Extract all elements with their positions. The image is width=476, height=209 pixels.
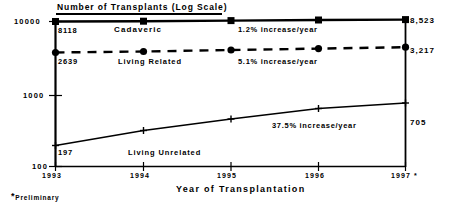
series-marker-living-related	[227, 46, 234, 53]
footnote: *Preliminary	[11, 191, 60, 201]
series-label-living-related: Living Related	[118, 57, 182, 66]
chart-title: Number of Transplants (Log Scale)	[57, 2, 227, 12]
series-marker-cadaveric	[228, 17, 235, 24]
series-marker-cadaveric	[402, 16, 409, 23]
cadaveric-end-value: 8,523	[410, 16, 435, 25]
series-marker-cadaveric	[315, 17, 322, 24]
series-marker-living-related	[52, 49, 59, 56]
living-unrelated-end-value: 705	[410, 118, 426, 127]
living-unrelated-start-value: 197	[58, 148, 73, 157]
y-axis-tick-label-1000: 1000	[23, 91, 45, 100]
annotation-living-related-growth: 5.1% increase/year	[238, 57, 318, 66]
x-axis-tick-label-1993: 1993	[42, 172, 62, 179]
living-related-end-value: 3,217	[410, 46, 435, 55]
living-related-start-value: 2639	[58, 57, 78, 66]
y-axis-tick-label-100: 100	[32, 162, 48, 171]
x-axis-tick-label-1994: 1994	[130, 172, 150, 179]
series-marker-cadaveric	[140, 18, 147, 25]
annotation-living-unrelated-growth: 37.5% increase/year	[272, 121, 357, 130]
x-axis-title: Year of Transplantation	[176, 184, 305, 194]
x-axis-tick-label-1996: 1996	[305, 172, 325, 179]
series-label-living-unrelated: Living Unrelated	[128, 148, 201, 157]
y-axis-tick-label-10000: 10000	[14, 17, 41, 26]
x-axis-tick-label-1997: 1997 *	[391, 172, 418, 179]
transplant-log-scale-chart: Number of Transplants (Log Scale) 10000 …	[0, 0, 476, 209]
series-marker-living-related	[140, 48, 147, 55]
x-axis-tick-label-1995: 1995	[217, 172, 237, 179]
series-marker-living-related	[315, 45, 322, 52]
footnote-text: Preliminary	[15, 194, 59, 201]
annotation-cadaveric-growth: 1.2% increase/year	[238, 25, 318, 34]
chart-title-underline	[56, 13, 222, 15]
cadaveric-start-value: 8118	[58, 26, 77, 35]
series-marker-living-related	[402, 44, 409, 51]
series-label-cadaveric: Cadaveric	[114, 25, 162, 34]
series-marker-cadaveric	[52, 18, 59, 25]
